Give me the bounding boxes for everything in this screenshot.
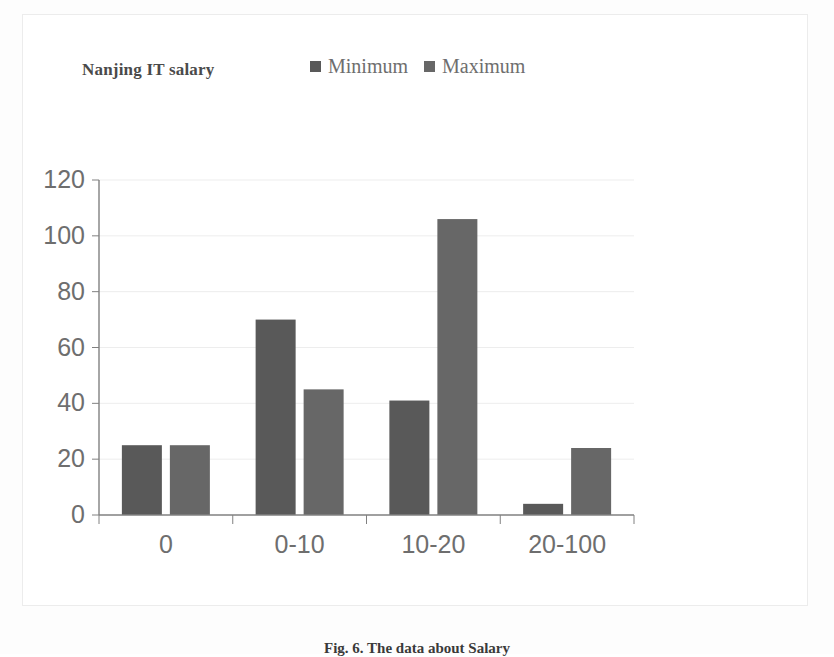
x-axis-tick-label: 10-20 — [401, 530, 465, 558]
y-axis-tick-labels: 020406080100120 — [43, 165, 85, 528]
y-axis-tick-label: 60 — [57, 333, 85, 361]
bar — [304, 389, 344, 515]
bar — [571, 448, 611, 515]
y-axis-tick-label: 20 — [57, 444, 85, 472]
y-axis-ticks — [92, 180, 99, 515]
y-axis-tick-label: 80 — [57, 277, 85, 305]
bar — [170, 445, 210, 515]
figure-caption: Fig. 6. The data about Salary — [0, 640, 834, 657]
y-axis-tick-label: 120 — [43, 165, 85, 193]
bars — [122, 219, 611, 515]
bar — [389, 401, 429, 515]
y-axis-tick-label: 100 — [43, 221, 85, 249]
bar — [256, 320, 296, 515]
x-axis-tick-label: 0 — [159, 530, 173, 558]
x-axis-tick-label: 20-100 — [528, 530, 606, 558]
x-axis-tick-label: 0-10 — [275, 530, 325, 558]
y-axis-tick-label: 0 — [71, 500, 85, 528]
y-axis-tick-label: 40 — [57, 388, 85, 416]
x-axis-tick-labels: 00-1010-2020-100 — [159, 530, 606, 558]
bar — [122, 445, 162, 515]
x-axis-ticks — [99, 515, 634, 524]
bar — [523, 504, 563, 515]
bar — [437, 219, 477, 515]
gridlines — [99, 180, 634, 459]
